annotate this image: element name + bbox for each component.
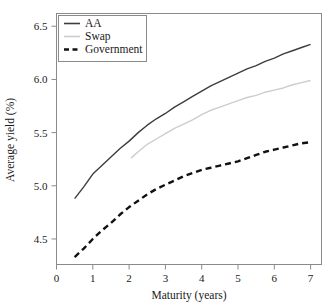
- x-tick-label: 0: [54, 272, 60, 284]
- x-tick-label: 4: [199, 272, 205, 284]
- x-axis-tick-labels: 01234567: [54, 272, 314, 284]
- y-tick-label: 5.5: [34, 127, 48, 139]
- legend-label-government: Government: [85, 43, 143, 55]
- x-tick-label: 6: [272, 272, 278, 284]
- x-tick-label: 2: [126, 272, 132, 284]
- chart-legend: AASwapGovernment: [59, 16, 147, 62]
- y-axis-tick-labels: 4.55.05.56.06.5: [34, 20, 48, 245]
- x-tick-label: 1: [90, 272, 96, 284]
- chart-canvas: 01234567 4.55.05.56.06.5 Maturity (years…: [0, 0, 331, 306]
- y-tick-label: 6.5: [34, 20, 48, 32]
- x-tick-label: 5: [235, 272, 241, 284]
- x-tick-label: 7: [308, 272, 314, 284]
- legend-label-aa: AA: [85, 17, 102, 29]
- x-axis-ticks: [57, 265, 311, 270]
- y-tick-label: 5.0: [34, 180, 48, 192]
- y-axis-title: Average yield (%): [4, 98, 17, 182]
- legend-label-swap: Swap: [85, 30, 111, 43]
- chart-figure: 01234567 4.55.05.56.06.5 Maturity (years…: [0, 0, 331, 306]
- x-tick-label: 3: [163, 272, 169, 284]
- y-tick-label: 6.0: [34, 73, 48, 85]
- y-axis-ticks: [52, 26, 57, 239]
- x-axis-title: Maturity (years): [151, 289, 226, 302]
- y-tick-label: 4.5: [34, 233, 48, 245]
